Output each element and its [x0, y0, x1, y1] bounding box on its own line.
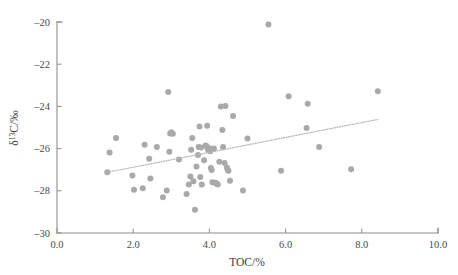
data-point [227, 178, 233, 184]
data-point [196, 123, 202, 129]
data-point [129, 172, 135, 178]
data-point [348, 166, 354, 172]
data-point [193, 164, 199, 170]
data-point [215, 181, 221, 187]
y-tick-label: –28 [33, 185, 50, 196]
y-tick-label: –24 [33, 101, 51, 112]
data-point [107, 149, 113, 155]
x-tick-label: 6.0 [279, 239, 292, 250]
data-points-group [104, 22, 381, 213]
x-tick-label: 0.0 [50, 239, 63, 250]
scatter-chart: –30–28–26–24–22–20 0.02.04.06.08.010.0 T… [0, 0, 458, 275]
data-point [222, 103, 228, 109]
data-point [188, 147, 194, 153]
data-point [265, 22, 271, 28]
data-point [316, 144, 322, 150]
axes-group [57, 22, 438, 233]
x-tick-label: 2.0 [127, 239, 140, 250]
data-point [147, 176, 153, 182]
chart-page: –30–28–26–24–22–20 0.02.04.06.08.010.0 T… [0, 0, 458, 275]
data-point [166, 149, 172, 155]
data-point [219, 127, 225, 133]
data-point [199, 181, 205, 187]
x-axis-title: TOC/% [229, 256, 265, 268]
data-point [165, 89, 171, 95]
data-point [160, 194, 166, 200]
data-point [190, 178, 196, 184]
data-point [240, 187, 246, 193]
data-point [142, 142, 148, 148]
x-tick-label: 8.0 [355, 239, 368, 250]
data-point [278, 168, 284, 174]
data-point [286, 93, 292, 99]
data-point [230, 113, 236, 119]
data-point [113, 135, 119, 141]
trendline-group [107, 119, 378, 172]
y-tick-label: –26 [33, 143, 50, 154]
data-point [204, 123, 210, 129]
data-point [192, 207, 198, 213]
x-tick-label: 10.0 [429, 239, 447, 250]
data-point [305, 101, 311, 107]
data-point [184, 191, 190, 197]
x-tick-label: 4.0 [203, 239, 216, 250]
y-tick-label: –22 [33, 59, 50, 70]
data-point [197, 174, 203, 180]
data-point [216, 159, 222, 165]
data-point [245, 135, 251, 141]
data-point [304, 125, 310, 131]
data-point [211, 146, 217, 152]
data-point [189, 135, 195, 141]
data-point [146, 156, 152, 162]
data-point [154, 144, 160, 150]
y-tick-label: –30 [33, 228, 50, 239]
data-point [140, 185, 146, 191]
y-axis-title: δ13C/‰ [8, 110, 20, 146]
data-point [375, 88, 381, 94]
data-point [131, 187, 137, 193]
x-axis-ticks: 0.02.04.06.08.010.0 [50, 229, 447, 251]
data-point [209, 167, 215, 173]
y-tick-label: –20 [33, 17, 50, 28]
data-point [201, 157, 207, 163]
trend-line [107, 119, 378, 172]
data-point [164, 187, 170, 193]
data-point [170, 131, 176, 137]
data-point [225, 168, 231, 174]
